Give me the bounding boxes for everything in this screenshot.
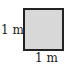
side-length-label-left: 1 m — [1, 24, 24, 36]
square-shape — [23, 8, 64, 51]
side-length-label-bottom: 1 m — [35, 52, 58, 64]
